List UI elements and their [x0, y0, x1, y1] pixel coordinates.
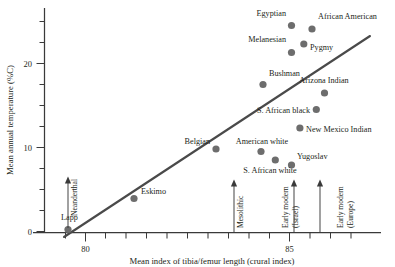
x-axis-minor-ticks [66, 233, 352, 239]
x-tick-label-85: 85 [285, 244, 294, 254]
data-point-american-white [257, 148, 264, 155]
data-point-bushman [259, 81, 266, 88]
x-tick-label-80: 80 [81, 244, 90, 254]
annotation-label-neanderthal: Neanderthal [70, 179, 79, 216]
annotation-label-early-modern-europe-line2: (Europe) [346, 201, 355, 228]
point-label-s-african-black: S. African black [257, 106, 311, 115]
annotation-early-modern-israel: Early modern (Israel) [281, 180, 300, 233]
point-label-arizona-indian: Arizona Indian [299, 76, 348, 85]
y-tick-label-10: 10 [24, 143, 33, 153]
point-label-new-mexico-indian: New Mexico Indian [306, 125, 371, 134]
annotation-early-modern-europe: Early modern (Europe) [317, 180, 355, 233]
data-point-belgian [212, 145, 219, 152]
point-label-african-american: African American [318, 12, 377, 21]
point-label-egyptian: Egyptian [256, 9, 286, 18]
data-point-african-american [308, 25, 315, 32]
y-tick-label-0: 0 [28, 227, 32, 237]
y-axis-minor-ticks [40, 22, 45, 211]
data-point-new-mexico-indian [296, 124, 303, 131]
point-label-pygmy: Pygmy [310, 43, 334, 52]
trend-line [64, 36, 370, 237]
point-label-s-african-white: S. African white [243, 166, 297, 175]
data-point-arizona-indian [321, 89, 328, 96]
point-label-american-white: American white [236, 137, 289, 146]
point-label-belgian: Belgian [185, 137, 210, 146]
point-label-bushman: Bushman [269, 69, 300, 78]
data-point-s-african-black [313, 106, 320, 113]
x-axis-title: Mean index of tibia/femur length (crural… [129, 256, 294, 266]
data-point-melanesian [288, 49, 295, 56]
data-point-egyptian [288, 22, 295, 29]
data-point-eskimo [130, 195, 137, 202]
y-axis-title: Mean annual temperature (%C) [5, 65, 15, 175]
point-label-eskimo: Eskimo [141, 187, 166, 196]
annotation-label-early-modern-israel-line2: (Israel) [291, 206, 300, 228]
annotation-label-early-modern-europe-line1: Early modern [336, 186, 345, 228]
annotation-mesolithic: Mesolithic [231, 180, 245, 233]
scatter-plot-figure: 0 10 20 80 85 Mean annual temperature (%… [0, 0, 395, 267]
point-label-melanesian: Melanesian [248, 35, 286, 44]
y-axis-major-ticks [37, 64, 45, 232]
point-label-yugoslav: Yugoslav [297, 152, 328, 161]
annotation-label-early-modern-israel-line1: Early modern [281, 186, 290, 228]
data-point-pygmy [300, 40, 307, 47]
annotation-label-mesolithic: Mesolithic [236, 195, 245, 228]
y-tick-label-20: 20 [24, 59, 33, 69]
data-point-s-african-white [272, 156, 279, 163]
